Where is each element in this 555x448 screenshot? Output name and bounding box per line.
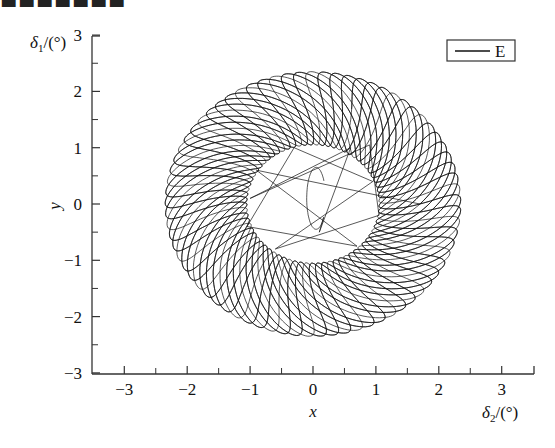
trajectory-path — [165, 72, 461, 337]
y-tick-label: −3 — [64, 364, 82, 383]
y-tick-label: −1 — [64, 251, 82, 270]
y-tick-label: 0 — [74, 195, 83, 214]
y-tick-label: 2 — [74, 82, 83, 101]
trajectory-series-e — [165, 72, 461, 337]
phase-plot: 3210−1−2−3 −3−2−10123 δ1/(°) y x δ2/(°) … — [0, 0, 555, 448]
x-axis-ticks: −3−2−10123 — [115, 366, 506, 399]
x-tick-label: 1 — [372, 380, 381, 399]
x-tick-label: −1 — [241, 380, 259, 399]
y-tick-label: 1 — [74, 139, 83, 158]
x-tick-label: 0 — [309, 380, 318, 399]
x-tick-label: 2 — [435, 380, 444, 399]
y-axis-title: y — [45, 202, 64, 212]
legend-label-e: E — [495, 42, 505, 61]
y-unit-label: δ1/(°) — [30, 33, 66, 54]
y-tick-label: 3 — [74, 26, 83, 45]
legend: E — [447, 40, 515, 61]
x-tick-label: −3 — [115, 380, 133, 399]
x-unit-label: δ2/(°) — [482, 403, 518, 424]
y-axis-ticks: 3210−1−2−3 — [64, 26, 100, 383]
x-axis-title: x — [308, 402, 317, 421]
y-tick-label: −2 — [64, 308, 82, 327]
x-tick-label: −2 — [178, 380, 196, 399]
x-tick-label: 3 — [497, 380, 506, 399]
